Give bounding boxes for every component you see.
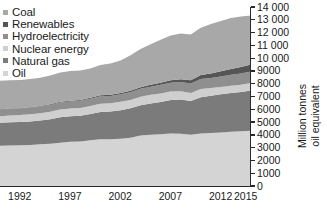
legend-item-label: Coal bbox=[12, 6, 35, 18]
y-axis-tick-label: 0 bbox=[257, 181, 263, 191]
legend-item: Nuclear energy bbox=[3, 43, 89, 55]
legend-swatch-icon bbox=[3, 46, 8, 51]
x-axis-tick-label: 1997 bbox=[58, 190, 81, 202]
legend-item: Hydroelectricity bbox=[3, 30, 89, 42]
x-axis-tick-label: 2015 bbox=[234, 190, 257, 202]
y-axis-tick-label: 6000 bbox=[257, 104, 280, 114]
y-axis-tick bbox=[251, 45, 255, 46]
legend-item-label: Natural gas bbox=[12, 55, 70, 67]
y-axis-tick bbox=[251, 109, 255, 110]
y-axis-tick-label: 13 000 bbox=[257, 14, 289, 24]
x-axis-tick-label: 2002 bbox=[108, 190, 131, 202]
y-axis-tick-label: 8000 bbox=[257, 78, 280, 88]
y-axis-tick bbox=[251, 185, 255, 186]
y-axis-tick-label: 10 000 bbox=[257, 53, 289, 63]
y-axis-tick-label: 11 000 bbox=[257, 40, 288, 50]
legend-swatch-icon bbox=[3, 22, 8, 27]
x-axis-line bbox=[0, 186, 251, 187]
y-axis-tick-label: 5000 bbox=[257, 117, 280, 127]
y-axis-tick bbox=[251, 70, 255, 71]
legend-swatch-icon bbox=[3, 34, 8, 39]
y-axis-tick bbox=[251, 6, 255, 7]
y-axis-tick bbox=[251, 96, 255, 97]
legend-item: Renewables bbox=[3, 18, 89, 30]
legend-item-label: Oil bbox=[12, 67, 26, 79]
y-axis-tick-label: 2000 bbox=[257, 155, 280, 165]
legend-item-label: Renewables bbox=[12, 18, 74, 30]
y-axis-tick-label: 9000 bbox=[257, 65, 280, 75]
y-axis-tick bbox=[251, 32, 255, 33]
y-axis-tick bbox=[251, 160, 255, 161]
legend-swatch-icon bbox=[3, 58, 8, 63]
legend-item: Oil bbox=[3, 67, 89, 79]
legend-item: Coal bbox=[3, 6, 89, 18]
y-axis-title: Million tonnes oil equivalent bbox=[296, 56, 321, 176]
y-axis-tick-label: 3000 bbox=[257, 142, 280, 152]
x-axis-tick-label: 1992 bbox=[8, 190, 31, 202]
stacked-area-chart: CoalRenewablesHydroelectricityNuclear en… bbox=[0, 0, 327, 219]
legend-item: Natural gas bbox=[3, 55, 89, 67]
y-axis-tick-label: 14 000 bbox=[257, 2, 289, 12]
y-axis-tick bbox=[251, 134, 255, 135]
y-axis-tick bbox=[251, 58, 255, 59]
x-axis-tick-label: 2007 bbox=[159, 190, 182, 202]
x-axis-labels: 199219972002200720122015 bbox=[0, 190, 260, 210]
y-axis-tick bbox=[251, 121, 255, 122]
x-axis-tick-label: 2012 bbox=[209, 190, 232, 202]
y-axis-labels: 010002000300040005000600070008000900010 … bbox=[257, 0, 297, 200]
y-axis-tick-label: 7000 bbox=[257, 91, 280, 101]
y-axis-tick-label: 12 000 bbox=[257, 27, 289, 37]
legend-swatch-icon bbox=[3, 10, 8, 15]
y-axis-tick-label: 4000 bbox=[257, 129, 280, 139]
y-axis-tick bbox=[251, 19, 255, 20]
legend-swatch-icon bbox=[3, 71, 8, 76]
y-axis-tick bbox=[251, 83, 255, 84]
y-axis-tick bbox=[251, 173, 255, 174]
legend-item-label: Hydroelectricity bbox=[12, 30, 89, 42]
y-axis-tick-label: 1000 bbox=[257, 168, 280, 178]
y-axis-tick bbox=[251, 147, 255, 148]
legend-item-label: Nuclear energy bbox=[12, 43, 89, 55]
legend: CoalRenewablesHydroelectricityNuclear en… bbox=[3, 6, 89, 79]
